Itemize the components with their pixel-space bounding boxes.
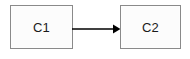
edge-c1-to-c2-arrow-icon <box>72 22 121 36</box>
diagram-canvas: C1 C2 <box>0 0 190 59</box>
node-c2-label: C2 <box>142 21 159 34</box>
node-c1-label: C1 <box>33 21 50 34</box>
node-c1[interactable]: C1 <box>10 5 73 49</box>
node-c2[interactable]: C2 <box>120 5 181 49</box>
